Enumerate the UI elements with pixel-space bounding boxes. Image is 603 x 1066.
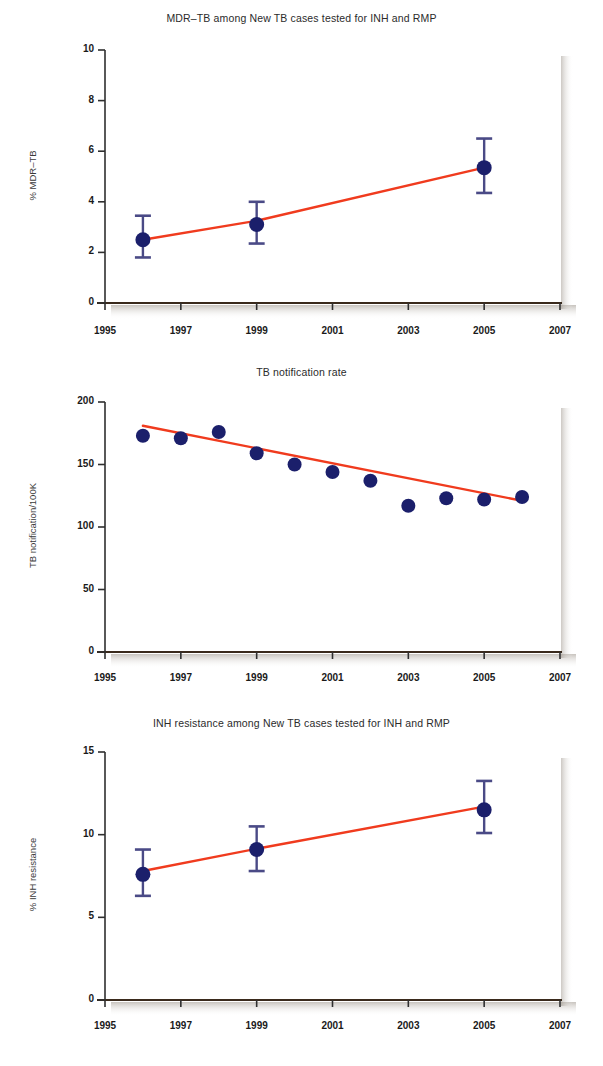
x-tick-label: 1995 xyxy=(80,325,130,336)
x-tick-label: 2001 xyxy=(308,1020,358,1031)
x-tick-label: 1999 xyxy=(232,1020,282,1031)
data-point-marker xyxy=(136,429,150,443)
data-point-marker xyxy=(439,491,453,505)
x-tick-label: 2003 xyxy=(383,672,433,683)
y-tick-label: 100 xyxy=(77,520,94,531)
x-tick-label: 1995 xyxy=(80,1020,130,1031)
figure-page: MDR–TB among New TB cases tested for INH… xyxy=(0,0,603,1066)
x-tick-label: 1997 xyxy=(156,325,206,336)
data-point-marker xyxy=(250,446,264,460)
y-tick-label: 150 xyxy=(77,458,94,469)
plot-shadow-right xyxy=(561,758,573,1006)
y-tick-label: 10 xyxy=(83,43,94,54)
chart-panel-mdr-tb: MDR–TB among New TB cases tested for INH… xyxy=(0,0,603,350)
x-tick-label: 2001 xyxy=(308,672,358,683)
x-tick-label: 2003 xyxy=(383,325,433,336)
x-tick-label: 2005 xyxy=(459,672,509,683)
data-point-marker xyxy=(477,802,492,817)
x-tick-label: 2005 xyxy=(459,325,509,336)
y-tick-label: 6 xyxy=(88,144,94,155)
data-point-marker xyxy=(212,425,226,439)
chart-panel-tb-notification: TB notification rate05010015020019951997… xyxy=(0,350,603,700)
data-point-marker xyxy=(288,458,302,472)
plot-shadow-right xyxy=(561,408,573,658)
y-tick-label: 4 xyxy=(88,195,94,206)
y-axis-label: TB notification/100K xyxy=(27,401,38,651)
x-tick-label: 1999 xyxy=(232,672,282,683)
y-axis-label: % MDR–TB xyxy=(27,49,38,302)
data-point-marker xyxy=(363,474,377,488)
chart-panel-inh-resistance: INH resistance among New TB cases tested… xyxy=(0,700,603,1066)
y-tick-label: 200 xyxy=(77,395,94,406)
x-tick-label: 2005 xyxy=(459,1020,509,1031)
plot-shadow-right xyxy=(561,56,573,309)
y-tick-label: 15 xyxy=(83,745,94,756)
x-tick-label: 2007 xyxy=(535,325,585,336)
y-axis-label: % INH resistance xyxy=(27,751,38,999)
trend-line xyxy=(143,426,522,501)
data-point-marker xyxy=(401,499,415,513)
y-tick-label: 2 xyxy=(88,245,94,256)
data-point-marker xyxy=(249,217,264,232)
y-tick-label: 10 xyxy=(83,828,94,839)
x-tick-label: 1997 xyxy=(156,672,206,683)
y-tick-label: 0 xyxy=(88,645,94,656)
data-point-marker xyxy=(135,232,150,247)
data-point-marker xyxy=(249,842,264,857)
y-tick-label: 8 xyxy=(88,94,94,105)
y-tick-label: 0 xyxy=(88,993,94,1004)
x-tick-label: 1995 xyxy=(80,672,130,683)
data-point-marker xyxy=(515,490,529,504)
x-tick-label: 1999 xyxy=(232,325,282,336)
y-tick-label: 5 xyxy=(88,910,94,921)
x-tick-label: 2003 xyxy=(383,1020,433,1031)
x-tick-label: 2007 xyxy=(535,672,585,683)
data-point-marker xyxy=(477,493,491,507)
x-tick-label: 2001 xyxy=(308,325,358,336)
data-point-marker xyxy=(326,465,340,479)
data-point-marker xyxy=(135,867,150,882)
y-tick-label: 0 xyxy=(88,296,94,307)
x-tick-label: 2007 xyxy=(535,1020,585,1031)
trend-line xyxy=(143,168,484,240)
y-tick-label: 50 xyxy=(83,583,94,594)
data-point-marker xyxy=(477,160,492,175)
data-point-marker xyxy=(174,431,188,445)
trend-line xyxy=(143,807,484,871)
x-tick-label: 1997 xyxy=(156,1020,206,1031)
